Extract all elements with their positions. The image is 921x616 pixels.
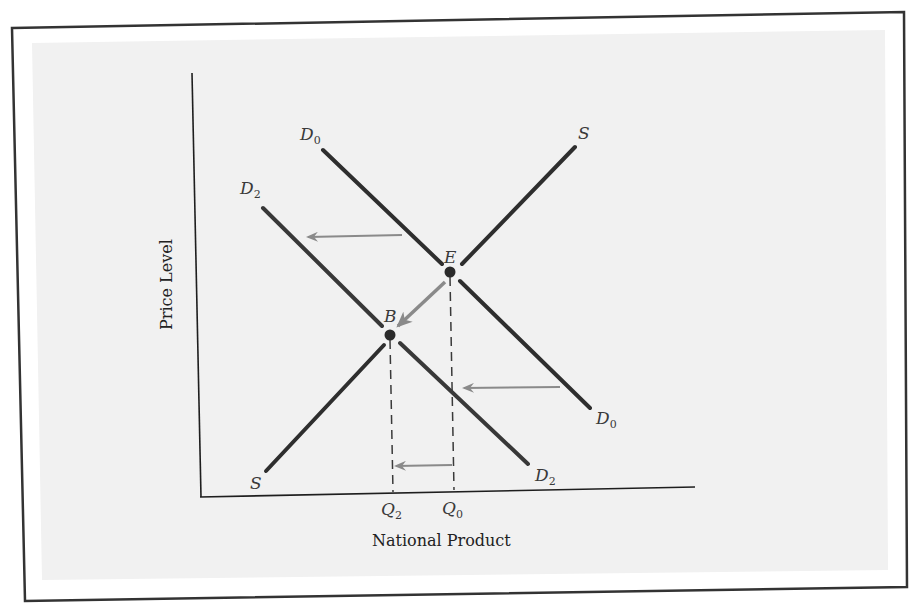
quantity-shift-arrow: [396, 465, 452, 466]
point-e: [445, 267, 456, 278]
lower-shift-arrow: [464, 387, 560, 388]
point-b-label: B: [383, 306, 397, 326]
point-e-label: E: [443, 247, 457, 267]
s-bottom-label: S: [250, 473, 262, 493]
point-b: [385, 330, 396, 341]
y-axis-title: Price Level: [157, 239, 176, 330]
s-top-label: S: [578, 123, 590, 143]
x-axis-title: National Product: [372, 531, 511, 550]
aggregate-demand-supply-diagram: E B D0 D0 D2 D2 S S Q2 Q0 National Produ…: [0, 0, 921, 616]
